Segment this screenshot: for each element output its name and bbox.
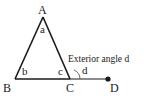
side-ac — [43, 17, 70, 79]
vertex-label-c: C — [66, 81, 74, 95]
angle-label-a: a — [40, 23, 45, 35]
vertex-label-d: D — [110, 81, 119, 95]
angle-label-d: d — [82, 64, 88, 76]
triangle-diagram: A B C D a b c d Exterior angle d — [0, 0, 146, 99]
exterior-angle-arc — [74, 70, 80, 79]
angle-label-c: c — [58, 65, 63, 77]
vertex-label-b: B — [3, 81, 11, 95]
vertex-label-a: A — [38, 3, 47, 17]
side-ab — [15, 17, 43, 79]
exterior-angle-annotation: Exterior angle d — [68, 54, 129, 64]
angle-label-b: b — [22, 65, 28, 77]
